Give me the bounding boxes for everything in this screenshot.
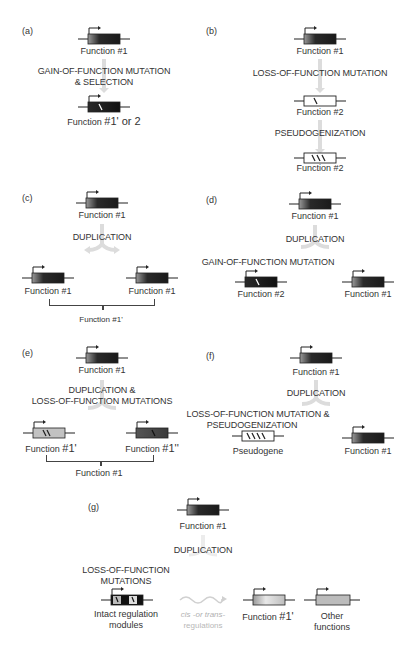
- panel-f-left-gene-label: Pseudogene: [233, 446, 284, 457]
- panel-c-combined-label: Function #1': [79, 314, 122, 325]
- gene-function-1-icon: [76, 26, 132, 46]
- gene-function-1-icon: [287, 191, 343, 211]
- panel-f-top-gene-label: Function #1: [292, 367, 339, 378]
- panel-d-label: (d): [206, 195, 217, 205]
- panel-g-step: DUPLICATION: [174, 545, 233, 556]
- panel-b-label: (b): [206, 26, 217, 36]
- gene-regulation-modules-icon: [99, 587, 155, 607]
- gene-function-1-right-icon: [340, 425, 396, 445]
- gene-function-1-icon: [74, 345, 130, 365]
- panel-a-step-line1: GAIN-OF-FUNCTION MUTATION: [38, 66, 171, 77]
- panel-d-left-gene-label: Function #2: [237, 289, 284, 300]
- panel-g-regulation-line2: regulations: [183, 620, 222, 631]
- panel-e-top-gene-label: Function #1: [78, 365, 125, 376]
- gene-function-1-double-prime-icon: [124, 420, 180, 440]
- panel-e-right-gene-label: Function #1'': [125, 443, 178, 455]
- panel-d-right-gene-label: Function #1: [344, 289, 391, 300]
- panel-c-top-gene-label: Function #1: [78, 210, 125, 221]
- gene-empty-mutated-icon: [292, 88, 348, 108]
- panel-b-step2: PSEUDOGENIZATION: [275, 128, 366, 139]
- gene-function-1-icon: [74, 190, 130, 210]
- panel-g-right-gene-label-line1: Other: [321, 611, 344, 622]
- gene-function-1-left-icon: [20, 265, 76, 285]
- gene-function-1-icon: [292, 26, 348, 46]
- panel-e-bracket: [46, 455, 154, 462]
- gene-function-1-right-icon: [340, 269, 396, 289]
- panel-c-right-gene-label: Function #1: [128, 286, 175, 297]
- panel-f-label: (f): [206, 351, 215, 361]
- panel-a-step-line2: & SELECTION: [75, 77, 133, 88]
- panel-b-mid-gene-label: Function #2: [296, 107, 343, 118]
- panel-d-branch-step: GAIN-OF-FUNCTION MUTATION: [202, 257, 335, 268]
- panel-a-label: (a): [22, 26, 33, 36]
- gene-function-1-prime-icon: [21, 420, 77, 440]
- panel-g-right-gene-label-line2: functions: [314, 622, 350, 633]
- panel-g-branch-step-line1: LOSS-OF-FUNCTION: [82, 565, 169, 576]
- panel-e-label: (e): [22, 348, 33, 358]
- gene-function-2-gain-icon: [233, 269, 289, 289]
- panel-d-step: DUPLICATION: [286, 234, 345, 245]
- panel-f-step: DUPLICATION: [287, 388, 346, 399]
- pseudogene-icon: [292, 145, 348, 165]
- panel-b-bottom-gene-label: Function #2: [296, 163, 343, 174]
- panel-g-left-gene-label-line1: Intact regulation: [94, 609, 158, 620]
- panel-a-top-gene-label: Function #1: [80, 46, 127, 57]
- gene-mutated-icon: [76, 94, 132, 114]
- panel-b-top-gene-label: Function #1: [296, 46, 343, 57]
- gene-function-1-icon: [175, 497, 231, 517]
- panel-c-left-gene-label: Function #1: [24, 286, 71, 297]
- panel-b-step1: LOSS-OF-FUNCTION MUTATION: [253, 68, 388, 79]
- gene-function-1-icon: [288, 345, 344, 365]
- panel-a-bottom-gene-label: Function #1' or 2: [67, 116, 140, 128]
- panel-g-top-gene-label: Function #1: [179, 521, 226, 532]
- gene-function-1-right-icon: [124, 265, 180, 285]
- panel-g-left-gene-label-line2: modules: [109, 620, 143, 631]
- panel-c-bracket: [49, 299, 155, 306]
- regulation-wavy-arrow-icon: [178, 594, 228, 606]
- panel-d-top-gene-label: Function #1: [291, 211, 338, 222]
- panel-g-mid-gene-label: Function #1': [242, 611, 293, 623]
- pseudogene-icon: [230, 428, 286, 444]
- gene-function-1-prime-icon: [241, 587, 297, 607]
- panel-e-combined-label: Function #1: [75, 468, 122, 479]
- panel-g-label: (g): [88, 502, 99, 512]
- panel-c-label: (c): [22, 193, 33, 203]
- panel-e-left-gene-label: Function #1': [25, 443, 76, 455]
- gene-other-functions-icon: [302, 587, 362, 607]
- panel-g-regulation-line1: cis -or trans-: [181, 609, 225, 620]
- panel-c-step: DUPLICATION: [73, 232, 132, 243]
- panel-e-step-line1: DUPLICATION &: [68, 385, 135, 396]
- panel-e-step-line2: LOSS-OF-FUNCTION MUTATIONS: [32, 396, 173, 407]
- panel-g-branch-step-line2: MUTATIONS: [101, 576, 152, 587]
- panel-f-branch-step-line1: LOSS-OF-FUNCTION MUTATION &: [187, 409, 330, 420]
- panel-f-right-gene-label: Function #1: [344, 446, 391, 457]
